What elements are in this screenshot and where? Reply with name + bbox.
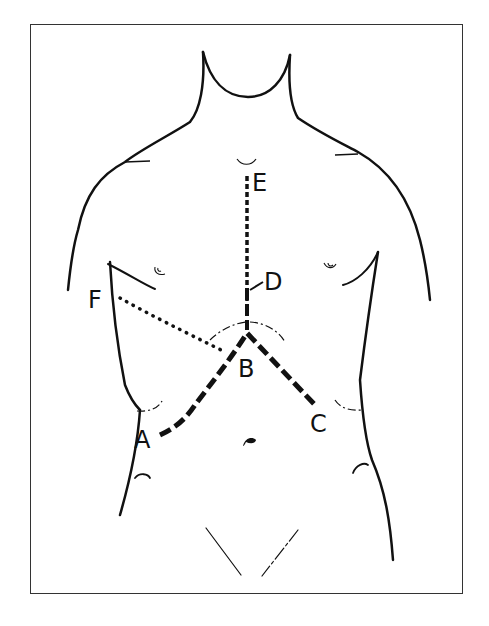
label-E: E — [252, 169, 267, 197]
left-costal-margin — [210, 322, 246, 340]
label-F: F — [88, 286, 102, 314]
left-groin-line — [206, 528, 241, 575]
umbilicus — [243, 438, 256, 446]
left-areola — [158, 268, 161, 271]
left-shoulder-crease — [125, 161, 150, 162]
left-shoulder-line — [68, 52, 203, 290]
right-nipple — [324, 263, 336, 268]
right-hip-line — [353, 464, 368, 473]
D-leader — [250, 282, 263, 290]
sternal-notch — [237, 159, 256, 164]
left-pectoral-line — [108, 264, 155, 289]
label-A: A — [134, 426, 151, 454]
right-lower-rib — [335, 400, 362, 410]
neck-line — [203, 52, 290, 97]
label-D: D — [264, 268, 282, 296]
right-areola — [328, 263, 333, 266]
left-hip-line — [135, 474, 150, 478]
right-shoulder-crease — [335, 154, 358, 155]
label-C: C — [310, 410, 327, 438]
chevron-incision-A-B-C — [160, 333, 315, 435]
right-shoulder-line — [289, 55, 430, 300]
right-groin-line — [262, 530, 298, 576]
torso-diagram: E D F B A C — [0, 0, 489, 626]
label-B: B — [238, 355, 254, 383]
subcostal-incision-F-to-B — [120, 298, 225, 352]
right-flank-line — [360, 252, 393, 560]
